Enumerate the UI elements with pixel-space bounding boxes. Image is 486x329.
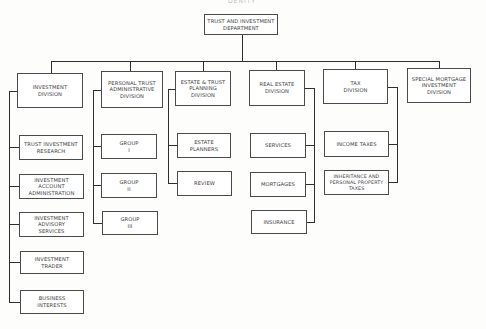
income-taxes-box: INCOME TAXES xyxy=(324,131,389,157)
trust-investment-research-box: TRUST INVESTMENT RESEARCH xyxy=(19,135,83,160)
estate-planners-box: ESTATE PLANNERS xyxy=(177,133,231,158)
drop-personal-trust xyxy=(130,61,131,71)
real-estate-division-box: REAL ESTATE DIVISION xyxy=(249,70,305,106)
tax-branch xyxy=(389,144,397,145)
group-i-box: GROUP I xyxy=(101,134,157,159)
trust-and-investment-department-box: TRUST AND INVESTMENT DEPARTMENT xyxy=(204,14,278,35)
services-box: SERVICES xyxy=(250,133,306,158)
personal-trust-division-box: PERSONAL TRUST ADMINISTRATIVE DIVISION xyxy=(101,71,163,108)
investment-branch xyxy=(9,302,20,303)
group-ii-box: GROUP II xyxy=(101,173,157,198)
personal-trust-branch xyxy=(93,223,102,224)
drop-special-mortgage xyxy=(439,61,440,68)
investment-spine xyxy=(9,91,10,303)
personal-trust-branch xyxy=(93,185,101,186)
investment-branch xyxy=(9,147,19,148)
business-interests-box: BUSINESS INTERESTS xyxy=(20,290,84,314)
tax-spine xyxy=(397,87,398,183)
inheritance-personal-property-taxes-box: INHERITANCE AND PERSONAL PROPERTY TAXES xyxy=(324,170,389,195)
investment-account-administration-box: INVESTMENT ACCOUNT ADMINISTRATION xyxy=(19,174,84,199)
mortgages-box: MORTGAGES xyxy=(250,172,306,197)
division-bus xyxy=(51,61,440,62)
tax-branch xyxy=(389,182,397,183)
real-estate-branch xyxy=(306,145,314,146)
investment-spine-top xyxy=(9,91,17,92)
personal-trust-branch xyxy=(93,146,101,147)
estate-branch xyxy=(168,183,177,184)
estate-spine-top xyxy=(168,89,175,90)
drop-tax xyxy=(355,61,356,69)
drop-investment xyxy=(51,61,52,73)
investment-trader-box: INVESTMENT TRADER xyxy=(20,251,84,274)
drop-estate xyxy=(203,61,204,71)
personal-trust-spine xyxy=(93,90,94,224)
tax-division-box: TAX DIVISION xyxy=(323,69,388,104)
estate-trust-planning-division-box: ESTATE & TRUST PLANNING DIVISION xyxy=(175,71,231,106)
org-chart: DENITY TRUST AND INVESTMENT DEPARTMENT I… xyxy=(0,0,486,329)
real-estate-spine xyxy=(314,88,315,223)
tax-spine-top xyxy=(388,87,397,88)
review-box: REVIEW xyxy=(177,171,232,196)
root-connector xyxy=(242,35,243,62)
estate-branch xyxy=(168,145,177,146)
investment-branch xyxy=(9,262,20,263)
estate-spine xyxy=(168,89,169,184)
group-iii-box: GROUP III xyxy=(102,211,158,235)
special-mortgage-division-box: SPECIAL MORTGAGE INVESTMENT DIVISION xyxy=(407,68,471,103)
real-estate-branch xyxy=(307,222,314,223)
investment-branch xyxy=(9,224,19,225)
personal-trust-spine-top xyxy=(93,90,101,91)
investment-division-box: INVESTMENT DIVISION xyxy=(17,73,83,108)
investment-advisory-services-box: INVESTMENT ADVISORY SERVICES xyxy=(19,212,84,237)
cut-off-title: DENITY xyxy=(214,0,270,3)
investment-branch xyxy=(9,186,19,187)
insurance-box: INSURANCE xyxy=(251,210,307,234)
real-estate-branch xyxy=(306,184,314,185)
real-estate-spine-top xyxy=(305,88,314,89)
drop-real-estate xyxy=(276,61,277,70)
